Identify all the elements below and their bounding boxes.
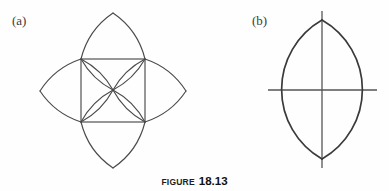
petal-bottom-outer-left-arc [81, 122, 113, 168]
petal-left-outer-upper-arc [40, 59, 81, 91]
petal-right-outer-upper-arc [145, 59, 186, 91]
petal-bottom-inner-right-arc [113, 90, 145, 122]
petal-bottom-outer-right-arc [113, 122, 145, 168]
figure-caption: FIGURE18.13 [0, 172, 389, 188]
figure-page: (a) (b) [0, 0, 389, 191]
petal-top-outer-left-arc [81, 13, 113, 59]
petal-left-inner-lower-arc [81, 90, 113, 122]
figure-panel-b: (b) [200, 0, 389, 175]
figure-a-drawing [0, 0, 200, 175]
petal-right-inner-lower-arc [113, 90, 145, 122]
petal-left-inner-upper-arc [81, 59, 113, 90]
figure-b-drawing [200, 0, 389, 175]
petal-bottom-inner-left-arc [81, 90, 113, 122]
petal-top-outer-right-arc [113, 13, 145, 59]
petal-right-outer-lower-arc [145, 91, 186, 122]
petal-top-inner-right-arc [113, 59, 145, 90]
petal-right-inner-upper-arc [113, 59, 145, 90]
figure-panel-a: (a) [0, 0, 200, 175]
petal-top-inner-left-arc [81, 59, 113, 90]
figure-caption-number: 18.13 [199, 175, 228, 187]
petal-left-outer-lower-arc [40, 91, 81, 122]
figure-caption-word: FIGURE [161, 177, 194, 187]
